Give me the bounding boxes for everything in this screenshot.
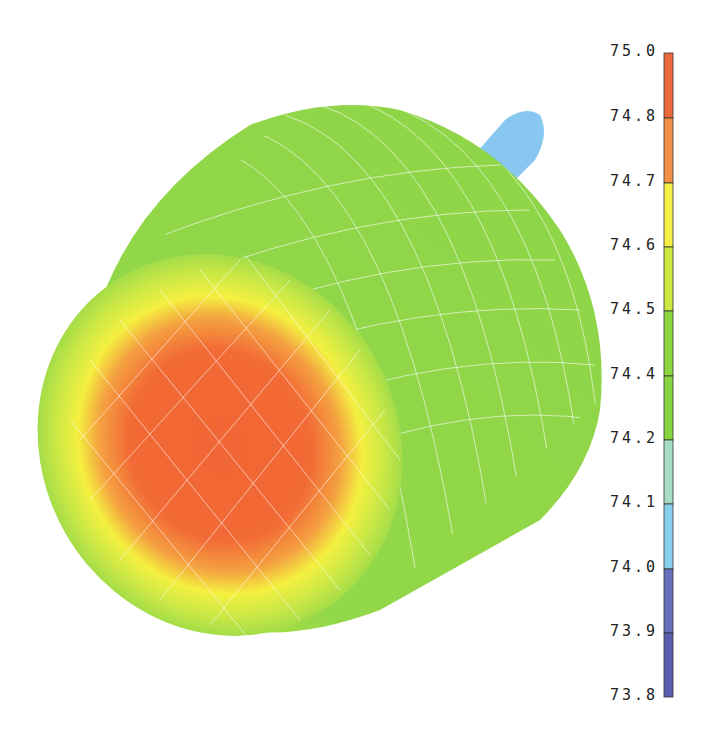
colorbar-tick: 74.4 [578,365,658,383]
colorbar-tick: 75.0 [578,42,658,60]
colorbar-tick: 74.2 [578,429,658,447]
colorbar-tick: 74.8 [578,107,658,125]
colorbar-tick: 73.9 [578,622,658,640]
colorbar-tick: 74.0 [578,558,658,576]
colorbar-tick: 74.1 [578,493,658,511]
colorbar [664,53,673,697]
colorbar-tick: 74.6 [578,236,658,254]
colorbar-tick: 74.5 [578,300,658,318]
colorbar-tick: 74.7 [578,172,658,190]
colorbar-tick: 73.8 [578,686,658,704]
